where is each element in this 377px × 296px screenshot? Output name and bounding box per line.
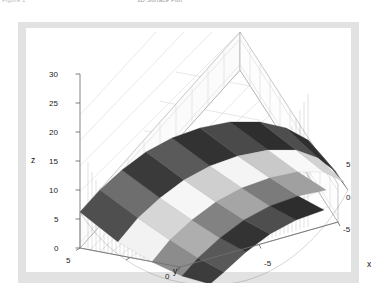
page-header: Figure 1 3D Surface Plot bbox=[0, 0, 377, 12]
z-axis-title: z bbox=[31, 155, 35, 165]
surface-plot-axes bbox=[18, 22, 359, 283]
z-tick-label-25: 25 bbox=[49, 99, 58, 108]
z-tick-label-20: 20 bbox=[49, 128, 58, 137]
x-axis-title: x bbox=[367, 259, 371, 269]
figure-panel: 0 5 10 15 20 25 30 z 5 0 -5 y 5 0 -5 x bbox=[18, 22, 359, 283]
x-tick-label-5: 5 bbox=[346, 160, 350, 169]
y-tick-label-5: 5 bbox=[66, 256, 70, 265]
x-tick-label-neg5: -5 bbox=[343, 225, 350, 234]
z-tick-label-10: 10 bbox=[49, 186, 58, 195]
x-tick-label-0: 0 bbox=[346, 193, 350, 202]
y-axis-title: y bbox=[173, 266, 177, 276]
z-tick-label-15: 15 bbox=[49, 157, 58, 166]
y-tick-label-0: 0 bbox=[165, 272, 169, 281]
z-tick-label-30: 30 bbox=[49, 70, 58, 79]
header-center-text: 3D Surface Plot bbox=[137, 0, 182, 3]
z-tick-label-5: 5 bbox=[54, 215, 58, 224]
z-tick-label-0: 0 bbox=[54, 244, 58, 253]
header-left-text: Figure 1 bbox=[2, 0, 26, 3]
y-tick-label-neg5: -5 bbox=[264, 259, 271, 268]
